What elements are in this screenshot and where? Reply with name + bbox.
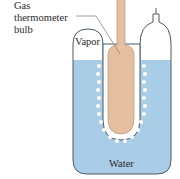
water-label: Water — [109, 158, 134, 170]
gas-label: Gas — [14, 0, 30, 12]
vapor-label: Vapor — [75, 36, 100, 48]
thermometer-label: thermometer — [14, 12, 68, 24]
thermometer-bulb — [108, 0, 134, 134]
bulb-label: bulb — [14, 24, 33, 36]
